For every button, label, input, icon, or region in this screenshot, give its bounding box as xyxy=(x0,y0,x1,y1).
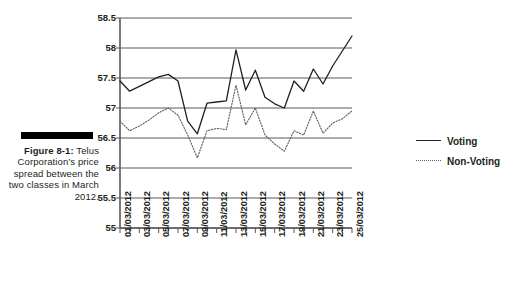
legend-label-non-voting: Non-Voting xyxy=(447,156,500,167)
x-tick-label: 25/03/2012 xyxy=(356,191,365,237)
caption-rule xyxy=(21,132,93,139)
figure-label: Figure 8-1: xyxy=(24,145,74,156)
x-tick-label: 03/03/2012 xyxy=(143,191,152,237)
legend-item-voting: Voting xyxy=(416,131,528,151)
x-tick-label: 07/03/2012 xyxy=(182,191,191,237)
x-tick-label: 21/03/2012 xyxy=(317,191,326,237)
x-tick-label: 23/03/2012 xyxy=(336,191,345,237)
legend-label-voting: Voting xyxy=(447,136,477,147)
x-tick-label: 19/03/2012 xyxy=(298,191,307,237)
x-tick-label: 01/03/2012 xyxy=(124,191,133,237)
x-tick-label: 13/03/2012 xyxy=(240,191,249,237)
x-tick-label: 11/03/2012 xyxy=(220,192,229,237)
legend-swatch-dotted-icon xyxy=(416,160,441,162)
chart-legend: Voting Non-Voting xyxy=(416,131,528,171)
x-tick-label: 09/03/2012 xyxy=(201,191,210,237)
x-tick-label: 05/03/2012 xyxy=(162,191,171,237)
legend-swatch-solid-icon xyxy=(416,140,441,142)
figure-container: Figure 8-1: Telus Corporation’s price sp… xyxy=(0,0,532,301)
x-tick-label: 15/03/2012 xyxy=(259,191,268,237)
x-tick-label: 17/03/2012 xyxy=(278,191,287,237)
legend-item-non-voting: Non-Voting xyxy=(416,151,528,171)
chart: 5555.55656.55757.55858.5 01/03/201203/03… xyxy=(85,0,532,301)
